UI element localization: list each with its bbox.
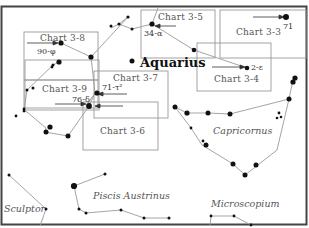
constellation-microscopium: Microscopium bbox=[211, 199, 280, 209]
star-label-71: 71 bbox=[283, 23, 293, 31]
label-chart-3-3[interactable]: Chart 3-3 bbox=[236, 28, 281, 37]
label-chart-3-6[interactable]: Chart 3-6 bbox=[100, 127, 145, 136]
star-label-76-delta: 76-δ bbox=[72, 96, 90, 104]
label-chart-3-5[interactable]: Chart 3-5 bbox=[158, 13, 203, 22]
label-chart-3-8[interactable]: Chart 3-8 bbox=[40, 34, 85, 43]
constellation-capricornus: Capricornus bbox=[213, 126, 272, 136]
star-label-2-epsilon: 2-ε bbox=[251, 64, 263, 72]
star-label-90-phi: 90-φ bbox=[37, 48, 55, 56]
constellation-aquarius: Aquarius bbox=[140, 56, 206, 69]
star-label-71-tau2: 71-τ² bbox=[102, 84, 123, 92]
label-chart-3-4[interactable]: Chart 3-4 bbox=[214, 75, 259, 84]
constellation-piscis-austrinus: Piscis Austrinus bbox=[93, 191, 170, 201]
star-label-34-alpha: 34-α bbox=[144, 30, 162, 38]
label-chart-3-7[interactable]: Chart 3-7 bbox=[113, 74, 158, 83]
constellation-sculptor: Sculptor bbox=[4, 204, 45, 214]
star-chart: Chart 3-8 Chart 3-9 Chart 3-7 Chart 3-6 … bbox=[0, 0, 309, 228]
label-chart-3-9[interactable]: Chart 3-9 bbox=[42, 85, 87, 94]
